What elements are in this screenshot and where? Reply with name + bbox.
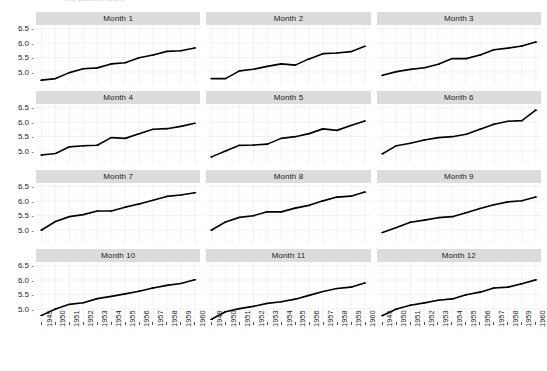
- x-tick-label: 1952: [427, 310, 436, 327]
- x-axis: 1949195019511952195319541955195619571958…: [36, 322, 200, 371]
- series-point: [381, 232, 384, 233]
- series-point: [238, 145, 241, 146]
- series-point: [82, 145, 85, 146]
- series-point: [506, 121, 509, 122]
- series-point: [534, 110, 537, 111]
- series-point: [110, 63, 113, 64]
- series-point: [294, 136, 297, 137]
- y-tick-text: 6.5: [18, 182, 29, 191]
- x-tick-label: 1955: [298, 310, 307, 327]
- facet-plot-area: [36, 25, 200, 85]
- facet-panel: Month 8: [206, 170, 370, 243]
- x-axis: 1949195019511952195319541955195619571958…: [206, 322, 370, 371]
- x-tick-mark: [152, 322, 153, 325]
- series-point: [151, 129, 154, 130]
- y-tick-text: 6.5: [18, 261, 29, 270]
- series-point: [395, 145, 398, 146]
- facet-plot-area: [36, 104, 200, 164]
- x-tick-mark: [424, 322, 425, 325]
- series-point: [336, 52, 339, 53]
- series-point: [165, 285, 168, 286]
- y-tick-label: 6.0-: [18, 275, 34, 284]
- x-tick-mark: [69, 322, 70, 325]
- series-point: [322, 53, 325, 54]
- series-point: [534, 41, 537, 42]
- facet-panel: Month 4: [36, 91, 200, 164]
- series-point: [363, 120, 366, 121]
- x-tick-mark: [194, 322, 195, 325]
- y-tick-text: 6.0: [18, 117, 29, 126]
- x-tick-label: 1952: [86, 310, 95, 327]
- facet-strip-label: Month 6: [444, 94, 474, 102]
- x-tick-label: 1957: [326, 310, 335, 327]
- x-tick-mark: [521, 322, 522, 325]
- series-point: [422, 220, 425, 221]
- facet-strip: Month 11: [206, 249, 370, 262]
- x-tick-mark: [437, 322, 438, 325]
- x-tick-mark: [295, 322, 296, 325]
- series-point: [492, 49, 495, 50]
- x-tick-label: 1949: [385, 310, 394, 327]
- x-tick-label: 1950: [58, 310, 67, 327]
- series-point: [381, 315, 384, 316]
- series-point: [82, 214, 85, 215]
- series-point: [450, 298, 453, 299]
- series-point: [165, 128, 168, 129]
- series-point: [224, 221, 227, 222]
- y-tick-text: 5.0: [18, 146, 29, 155]
- x-tick-mark: [253, 322, 254, 325]
- series-point: [450, 216, 453, 217]
- y-tick-text: 6.0: [18, 196, 29, 205]
- x-tick-label: 1953: [100, 310, 109, 327]
- x-tick-label: 1954: [455, 310, 464, 327]
- x-tick-mark: [535, 322, 536, 325]
- series-point: [520, 120, 523, 121]
- x-tick-label: 1957: [497, 310, 506, 327]
- facet-plot-area: [206, 104, 370, 164]
- series-point: [534, 279, 537, 280]
- y-tick-label: 5.5-: [18, 290, 34, 299]
- x-tick-mark: [365, 322, 366, 325]
- series-point: [322, 200, 325, 201]
- series-point: [179, 50, 182, 51]
- y-tick-label: 5.0-: [18, 304, 34, 313]
- series-point: [308, 205, 311, 206]
- series-point: [478, 208, 481, 209]
- x-tick-label: 1954: [285, 310, 294, 327]
- x-tick-label: 1960: [538, 310, 547, 327]
- facet-strip: Month 4: [36, 91, 200, 104]
- y-tick-text: 5.5: [18, 53, 29, 62]
- y-tick-label: 6.0-: [18, 117, 34, 126]
- series-point: [54, 153, 57, 154]
- series-point: [506, 201, 509, 202]
- facet-panel: Month 1: [36, 12, 200, 85]
- series-point: [238, 308, 241, 309]
- series-point: [464, 294, 467, 295]
- series-point: [165, 196, 168, 197]
- series-point: [96, 298, 99, 299]
- x-tick-mark: [166, 322, 167, 325]
- x-tick-mark: [125, 322, 126, 325]
- facet-strip-label: Month 8: [274, 173, 304, 181]
- facet-strip: Month 9: [377, 170, 541, 183]
- x-tick-label: 1949: [45, 310, 54, 327]
- series-point: [40, 315, 43, 316]
- y-tick-label: 5.5-: [18, 211, 34, 220]
- series-point: [280, 138, 283, 139]
- series-point: [336, 288, 339, 289]
- series-point: [308, 133, 311, 134]
- y-tick-label: 5.0-: [18, 146, 34, 155]
- x-tick-mark: [465, 322, 466, 325]
- y-tick-label: 5.0-: [18, 225, 34, 234]
- x-tick-label: 1956: [483, 310, 492, 327]
- series-point: [381, 153, 384, 154]
- series-point: [210, 78, 213, 79]
- series-point: [336, 196, 339, 197]
- series-point: [266, 144, 269, 145]
- series-point: [224, 150, 227, 151]
- series-point: [266, 303, 269, 304]
- series-point: [96, 145, 99, 146]
- series-point: [179, 126, 182, 127]
- series-point: [381, 75, 384, 76]
